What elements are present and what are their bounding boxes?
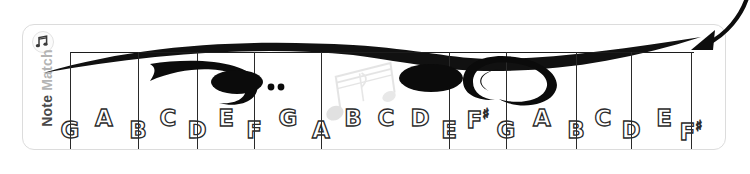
note-letter[interactable]: G — [497, 117, 516, 143]
sharp-icon: ♯ — [695, 117, 702, 135]
note-letter[interactable]: E — [441, 117, 457, 143]
screenshot-root: NoteMatch — [0, 0, 750, 174]
note-letter[interactable]: B — [567, 117, 585, 143]
sharp-icon: ♯ — [482, 105, 489, 123]
note-letter[interactable]: C — [595, 105, 612, 131]
note-letter[interactable]: D — [410, 105, 429, 131]
note-letter[interactable]: C — [378, 105, 395, 131]
note-letter[interactable]: C — [160, 105, 177, 131]
note-letter[interactable]: D — [187, 117, 206, 143]
note-letter[interactable]: D — [621, 117, 640, 143]
note-letter[interactable]: E — [218, 105, 234, 131]
note-match-card: NoteMatch — [22, 24, 726, 150]
curved-arrow-down-left-icon — [655, 0, 750, 60]
note-letter[interactable]: B — [344, 105, 362, 131]
note-letter[interactable]: G — [279, 105, 298, 131]
staff-top-line — [70, 52, 694, 53]
note-letter[interactable]: A — [533, 105, 551, 131]
note-letter[interactable]: F — [246, 117, 262, 143]
note-letter[interactable]: A — [312, 117, 330, 143]
note-letter-sharp[interactable]: F♯ — [680, 117, 703, 145]
note-letter[interactable]: B — [129, 117, 147, 143]
note-letter[interactable]: A — [95, 105, 113, 131]
note-letter-sharp[interactable]: F♯ — [467, 105, 490, 133]
note-letter[interactable]: G — [61, 117, 80, 143]
note-letter[interactable]: E — [656, 105, 672, 131]
